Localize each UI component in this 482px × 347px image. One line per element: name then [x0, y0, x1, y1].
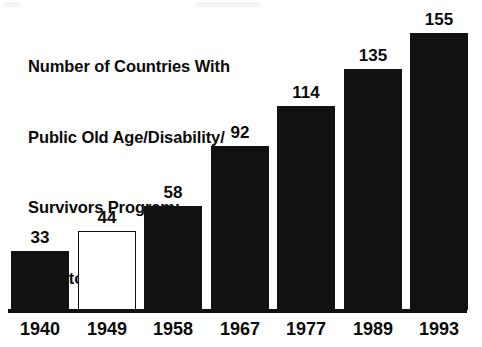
plot-area: 33445892114135155	[0, 0, 482, 347]
bar-1967	[211, 146, 269, 310]
bar-1958	[144, 206, 202, 310]
x-axis-baseline	[8, 309, 467, 313]
chart-screenshot: Number of Countries With Public Old Age/…	[0, 0, 482, 347]
bar-value-label-1993: 155	[400, 11, 478, 29]
bar-value-label-1949: 44	[68, 209, 146, 227]
bar-value-label-1977: 114	[267, 84, 345, 102]
bar-value-label-1989: 135	[334, 47, 412, 65]
bar-1993	[410, 33, 468, 310]
x-axis-tick-1993: 1993	[398, 318, 480, 340]
bar-value-label-1967: 92	[201, 124, 279, 142]
bar-1977	[277, 106, 335, 310]
bar-value-label-1940: 33	[1, 229, 79, 247]
bar-1949	[78, 231, 136, 310]
bar-value-label-1958: 58	[134, 184, 212, 202]
bar-1940	[11, 251, 69, 310]
bar-1989	[344, 69, 402, 310]
